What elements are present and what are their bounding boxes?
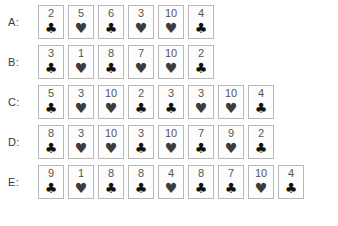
playing-card[interactable]: 3♣: [158, 85, 184, 119]
playing-card[interactable]: 8♣: [38, 125, 64, 159]
card-rank: 6: [108, 7, 114, 20]
playing-card[interactable]: 5♣: [38, 85, 64, 119]
row-label: E:: [0, 162, 38, 202]
club-suit-icon: ♣: [45, 61, 58, 76]
card-list: 8♣3♥10♥3♣10♥7♣9♥2♣: [38, 122, 274, 162]
card-list: 2♣5♥6♣3♥10♥4♣: [38, 2, 214, 42]
card-rank: 8: [108, 47, 114, 60]
card-rank: 4: [258, 87, 264, 100]
playing-card[interactable]: 10♥: [248, 165, 274, 199]
card-rank: 8: [48, 127, 54, 140]
playing-card[interactable]: 2♣: [128, 85, 154, 119]
card-list: 5♣3♥10♥2♣3♣3♥10♥4♣: [38, 82, 274, 122]
playing-card[interactable]: 10♥: [98, 85, 124, 119]
playing-card[interactable]: 3♥: [128, 5, 154, 39]
heart-suit-icon: ♥: [165, 21, 178, 36]
row-label: D:: [0, 122, 38, 162]
playing-card[interactable]: 3♣: [128, 125, 154, 159]
playing-card[interactable]: 6♣: [98, 5, 124, 39]
playing-card[interactable]: 10♥: [158, 45, 184, 79]
club-suit-icon: ♣: [45, 141, 58, 156]
card-rank: 9: [228, 127, 234, 140]
card-rank: 3: [138, 127, 144, 140]
card-rank: 1: [78, 47, 84, 60]
card-rank: 3: [168, 87, 174, 100]
card-rank: 3: [78, 127, 84, 140]
club-suit-icon: ♣: [105, 21, 118, 36]
card-rank: 7: [228, 167, 234, 180]
heart-suit-icon: ♥: [195, 101, 208, 116]
club-suit-icon: ♣: [135, 141, 148, 156]
playing-card[interactable]: 1♥: [68, 165, 94, 199]
card-rank: 3: [198, 87, 204, 100]
playing-card[interactable]: 8♣: [98, 165, 124, 199]
playing-card[interactable]: 4♥: [158, 165, 184, 199]
playing-card[interactable]: 8♣: [98, 45, 124, 79]
row-label: B:: [0, 42, 38, 82]
card-row-b: B:3♣1♥8♣7♥10♥2♣: [0, 42, 214, 82]
heart-suit-icon: ♥: [75, 141, 88, 156]
card-rank: 8: [198, 167, 204, 180]
club-suit-icon: ♣: [105, 181, 118, 196]
heart-suit-icon: ♥: [165, 181, 178, 196]
playing-card[interactable]: 2♣: [248, 125, 274, 159]
club-suit-icon: ♣: [45, 181, 58, 196]
club-suit-icon: ♣: [285, 181, 298, 196]
playing-card[interactable]: 10♥: [98, 125, 124, 159]
playing-card[interactable]: 3♣: [38, 45, 64, 79]
club-suit-icon: ♣: [225, 181, 238, 196]
card-rank: 2: [48, 7, 54, 20]
heart-suit-icon: ♥: [75, 101, 88, 116]
row-label: C:: [0, 82, 38, 122]
club-suit-icon: ♣: [255, 101, 268, 116]
card-row-a: A:2♣5♥6♣3♥10♥4♣: [0, 2, 214, 42]
playing-card[interactable]: 7♣: [188, 125, 214, 159]
card-rank: 10: [225, 87, 237, 100]
club-suit-icon: ♣: [135, 181, 148, 196]
club-suit-icon: ♣: [255, 141, 268, 156]
playing-card[interactable]: 4♣: [188, 5, 214, 39]
heart-suit-icon: ♥: [105, 141, 118, 156]
heart-suit-icon: ♥: [225, 141, 238, 156]
playing-card[interactable]: 8♣: [128, 165, 154, 199]
card-rank: 7: [138, 47, 144, 60]
playing-card[interactable]: 9♣: [38, 165, 64, 199]
heart-suit-icon: ♥: [105, 101, 118, 116]
card-rank: 10: [255, 167, 267, 180]
heart-suit-icon: ♥: [135, 61, 148, 76]
card-rank: 5: [78, 7, 84, 20]
club-suit-icon: ♣: [195, 21, 208, 36]
playing-card[interactable]: 4♣: [278, 165, 304, 199]
heart-suit-icon: ♥: [75, 21, 88, 36]
club-suit-icon: ♣: [195, 61, 208, 76]
playing-card[interactable]: 2♣: [38, 5, 64, 39]
heart-suit-icon: ♥: [165, 141, 178, 156]
playing-card[interactable]: 3♥: [68, 125, 94, 159]
card-rank: 3: [138, 7, 144, 20]
card-rank: 9: [48, 167, 54, 180]
club-suit-icon: ♣: [45, 21, 58, 36]
playing-card[interactable]: 2♣: [188, 45, 214, 79]
playing-card[interactable]: 7♥: [128, 45, 154, 79]
card-rank: 4: [168, 167, 174, 180]
playing-card[interactable]: 3♥: [68, 85, 94, 119]
playing-card[interactable]: 8♣: [188, 165, 214, 199]
playing-card[interactable]: 5♥: [68, 5, 94, 39]
playing-card[interactable]: 3♥: [188, 85, 214, 119]
playing-card[interactable]: 1♥: [68, 45, 94, 79]
card-rank: 10: [105, 87, 117, 100]
club-suit-icon: ♣: [165, 101, 178, 116]
card-rank: 3: [48, 47, 54, 60]
heart-suit-icon: ♥: [75, 181, 88, 196]
card-row-e: E:9♣1♥8♣8♣4♥8♣7♣10♥4♣: [0, 162, 304, 202]
playing-card[interactable]: 7♣: [218, 165, 244, 199]
playing-card[interactable]: 9♥: [218, 125, 244, 159]
card-rank: 4: [288, 167, 294, 180]
club-suit-icon: ♣: [195, 141, 208, 156]
playing-card[interactable]: 4♣: [248, 85, 274, 119]
playing-card[interactable]: 10♥: [158, 5, 184, 39]
card-rank: 10: [165, 7, 177, 20]
playing-card[interactable]: 10♥: [218, 85, 244, 119]
playing-card[interactable]: 10♥: [158, 125, 184, 159]
card-rank: 2: [258, 127, 264, 140]
